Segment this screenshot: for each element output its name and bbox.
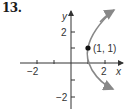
- parabola-curve-top-arrow: [100, 10, 114, 22]
- graph: −2 2 2 −2 x y (1, 1): [0, 0, 127, 109]
- y-tick-label-neg2: −2: [56, 92, 68, 103]
- y-ticks: [71, 32, 75, 97]
- x-tick-label-neg2: −2: [27, 66, 39, 77]
- x-axis-label: x: [115, 66, 122, 77]
- point-label: (1, 1): [93, 43, 116, 54]
- point-marker: [85, 45, 90, 50]
- y-axis-label: y: [61, 11, 68, 22]
- x-tick-label-2: 2: [101, 66, 107, 77]
- y-tick-label-2: 2: [61, 27, 67, 38]
